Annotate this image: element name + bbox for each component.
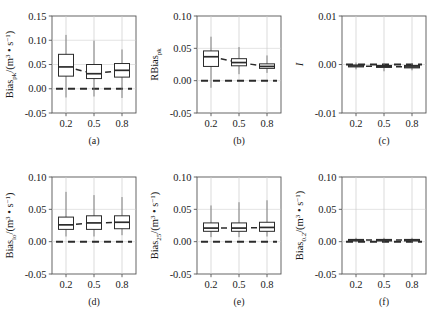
ytick-label-0.10: 0.10	[318, 172, 336, 183]
panel-caption-a: (a)	[88, 135, 99, 147]
y-axis-label-e: Bias25/(m3 • s−1)	[149, 191, 163, 259]
ytick-label-0.10: 0.10	[28, 35, 46, 46]
ytick-label-0.00: 0.00	[318, 59, 336, 70]
ytick-label-0.05: 0.05	[28, 204, 46, 215]
panel-b: -0.050.000.050.100.20.50.8RBiaspk(b)	[145, 0, 290, 161]
ytick-label--0.05: -0.05	[170, 108, 192, 119]
panel-caption-d: (d)	[88, 296, 100, 308]
ytick-label-0.00: 0.00	[173, 236, 191, 247]
ytick-label-0.01: 0.01	[318, 11, 336, 22]
box-iqr	[59, 54, 74, 76]
y-axis-label-a: Biaspk/(m3 • s−1)	[4, 30, 18, 98]
xtick-label-0.2: 0.2	[204, 279, 217, 290]
panel-caption-e: (e)	[233, 296, 244, 308]
ytick-label--0.01: -0.01	[315, 108, 337, 119]
xtick-label-0.5: 0.5	[87, 279, 100, 290]
ytick-label--0.05: -0.05	[25, 269, 47, 280]
panel-f: -0.050.000.050.100.20.50.8Bias0.2/(m3 • …	[290, 161, 435, 322]
panel-caption-c: (c)	[378, 135, 389, 147]
ytick-label-0.05: 0.05	[173, 204, 191, 215]
box-iqr	[232, 223, 247, 231]
panel-caption-f: (f)	[379, 296, 389, 308]
y-axis-label-d: Biaslo/(m3 • s−1)	[4, 192, 18, 259]
box-iqr	[87, 65, 102, 79]
y-axis-label-c: I	[293, 61, 305, 67]
xtick-label-0.2: 0.2	[204, 118, 217, 129]
xtick-label-0.5: 0.5	[377, 279, 390, 290]
box-iqr	[204, 223, 219, 231]
ytick-label-0.00: 0.00	[28, 83, 46, 94]
xtick-label-0.2: 0.2	[59, 279, 72, 290]
panel-d: -0.050.000.050.100.20.50.8Biaslo/(m3 • s…	[0, 161, 145, 322]
panel-a: -0.050.000.050.100.150.20.50.8Biaspk/(m3…	[0, 0, 145, 161]
ytick-label--0.05: -0.05	[170, 269, 192, 280]
ytick-label-0.05: 0.05	[173, 43, 191, 54]
panel-e: -0.050.000.050.100.20.50.8Bias25/(m3 • s…	[145, 161, 290, 322]
box-iqr	[204, 51, 219, 67]
xtick-label-0.5: 0.5	[377, 118, 390, 129]
xtick-label-0.8: 0.8	[115, 118, 128, 129]
ytick-label--0.05: -0.05	[25, 108, 47, 119]
ytick-label-0.00: 0.00	[318, 236, 336, 247]
xtick-label-0.8: 0.8	[260, 279, 273, 290]
xtick-label-0.2: 0.2	[59, 118, 72, 129]
xtick-label-0.8: 0.8	[115, 279, 128, 290]
xtick-label-0.2: 0.2	[349, 279, 362, 290]
xtick-label-0.5: 0.5	[87, 118, 100, 129]
ytick-label-0.00: 0.00	[173, 75, 191, 86]
ytick-label-0.00: 0.00	[28, 236, 46, 247]
panel-caption-b: (b)	[233, 135, 245, 147]
ytick-label-0.15: 0.15	[28, 11, 46, 22]
y-axis-label-f: Bias0.2/(m3 • s−1)	[294, 190, 308, 260]
xtick-label-0.5: 0.5	[232, 118, 245, 129]
ytick-label-0.10: 0.10	[173, 11, 191, 22]
y-axis-label-b: RBiaspk	[149, 48, 163, 81]
box-iqr	[59, 217, 74, 229]
figure-container: -0.050.000.050.100.150.20.50.8Biaspk/(m3…	[0, 0, 436, 322]
xtick-label-0.8: 0.8	[405, 118, 418, 129]
panel-c: -0.010.000.010.20.50.8I(c)	[290, 0, 435, 161]
ytick-label-0.10: 0.10	[28, 172, 46, 183]
xtick-label-0.8: 0.8	[405, 279, 418, 290]
ytick-label-0.05: 0.05	[318, 204, 336, 215]
ytick-label--0.05: -0.05	[315, 269, 337, 280]
ytick-label-0.05: 0.05	[28, 59, 46, 70]
xtick-label-0.2: 0.2	[349, 118, 362, 129]
xtick-label-0.8: 0.8	[260, 118, 273, 129]
ytick-label-0.10: 0.10	[173, 172, 191, 183]
xtick-label-0.5: 0.5	[232, 279, 245, 290]
